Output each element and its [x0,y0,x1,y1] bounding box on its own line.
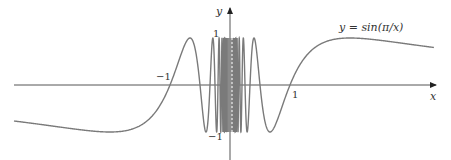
x-tick-label-1: 1 [292,89,298,100]
x-tick-label-neg1: −1 [156,71,171,82]
dense-oscillation-core [228,38,233,132]
x-axis-label: x [430,90,437,103]
y-tick-label-1: 1 [213,28,219,39]
y-tick-label-neg1: −1 [208,131,223,142]
function-label: y = sin(π/x) [338,21,403,34]
sin-pi-over-x-figure: x y −1 1 1 −1 y = sin(π/x) [0,0,451,160]
plot-area: x y −1 1 1 −1 y = sin(π/x) [0,0,451,160]
y-axis-label: y [215,5,223,18]
